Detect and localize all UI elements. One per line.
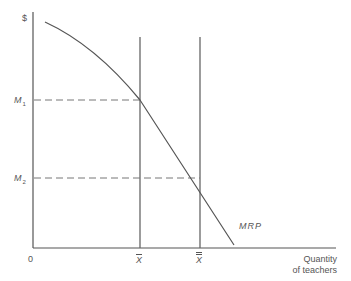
diagram-canvas xyxy=(0,0,351,281)
x-axis-label: Quantity of teachers xyxy=(285,254,337,276)
y-tick-m2: M2 xyxy=(14,174,27,185)
x-axis-label-line2: of teachers xyxy=(285,265,337,276)
origin-label: 0 xyxy=(28,255,33,264)
mrp-label: MRP xyxy=(239,222,262,231)
y-tick-m1: M1 xyxy=(14,96,27,107)
x-tick-x-bar: X xyxy=(136,256,142,265)
x-axis-label-line1: Quantity xyxy=(285,254,337,265)
y-axis-label: $ xyxy=(22,14,27,23)
x-tick-x-double-bar: X xyxy=(196,256,202,265)
